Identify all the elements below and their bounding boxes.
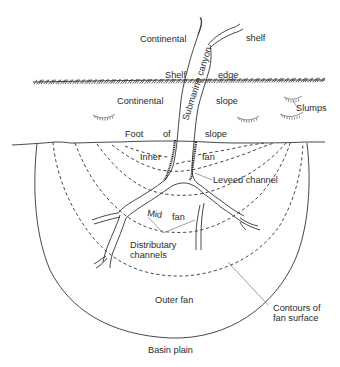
foot-of-slope-line xyxy=(12,141,325,145)
submarine-fan-diagram: Continental shelf Submarine canyon Shelf… xyxy=(0,0,340,367)
label-slumps: Slumps xyxy=(296,103,327,113)
label-continental-shelf-right: shelf xyxy=(246,33,266,43)
label-outer-fan: Outer fan xyxy=(155,295,193,305)
label-continental-shelf-left: Continental xyxy=(140,34,186,44)
label-submarine-canyon: Submarine canyon xyxy=(180,46,213,122)
label-inner-fan-right: fan xyxy=(202,152,215,162)
label-distributary-line1: Distributary xyxy=(130,240,177,250)
distributary-channels xyxy=(92,180,260,268)
label-distributary-line2: channels xyxy=(130,250,167,260)
label-continental-slope-left: Continental xyxy=(117,96,163,106)
label-leveed-channel: Leveed channel xyxy=(213,175,278,185)
label-mid-fan-left: Mid xyxy=(147,208,163,220)
label-foot-of-slope-3: slope xyxy=(205,129,227,139)
label-basin-plain: Basin plain xyxy=(148,345,193,355)
fan-contours xyxy=(53,142,303,276)
label-mid-fan-right: fan xyxy=(172,212,185,222)
label-foot-of-slope-1: Foot xyxy=(125,129,144,139)
label-continental-slope-right: slope xyxy=(216,96,238,106)
label-shelf-edge-right: edge xyxy=(218,70,238,80)
label-contours-line1: Contours of xyxy=(273,303,321,313)
label-foot-of-slope-2: of xyxy=(163,129,171,139)
label-shelf-edge-left: Shelf xyxy=(165,70,186,80)
label-inner-fan-left: Inner xyxy=(140,152,161,162)
label-contours-line2: fan surface xyxy=(273,313,318,323)
